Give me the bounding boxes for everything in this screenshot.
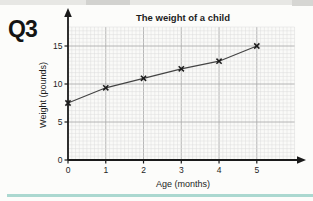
tick-label: 3	[179, 165, 184, 175]
chart-title: The weight of a child	[136, 12, 230, 23]
tick-label: 15	[53, 41, 63, 51]
tick-label: 5	[58, 117, 63, 127]
tick-label: 0	[66, 165, 71, 175]
x-axis-label: Age (months)	[156, 179, 210, 189]
y-axis-label: Weight (pounds)	[38, 62, 48, 128]
tick-label: 0	[58, 155, 63, 165]
tick-label: 10	[53, 79, 63, 89]
tick-label: 2	[141, 165, 146, 175]
teal-divider-line	[7, 194, 313, 197]
tick-label: 4	[217, 165, 222, 175]
tick-label: 5	[254, 165, 259, 175]
grid-lines	[68, 27, 295, 160]
weight-line-chart: 051015012345 The weight of a child Age (…	[0, 0, 313, 201]
tick-label: 1	[103, 165, 108, 175]
worksheet-page: Q3 051015012345 The weight of a child Ag…	[0, 0, 313, 201]
